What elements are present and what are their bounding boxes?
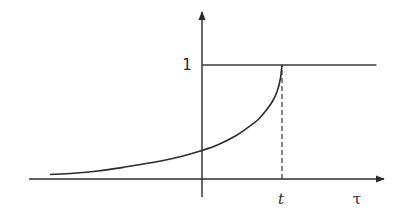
x-axis-label-tau: τ	[353, 190, 361, 208]
y-tick-label-1: 1	[182, 56, 192, 74]
x-tick-label-t: t	[278, 190, 285, 208]
diagram: 1 t τ	[0, 0, 403, 213]
series-line-curve	[50, 65, 282, 174]
